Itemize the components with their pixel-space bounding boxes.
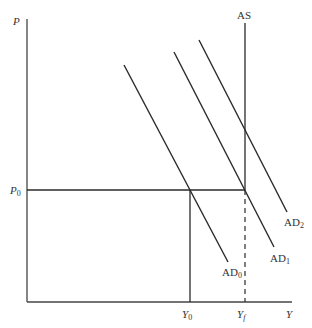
x-axis-label: Y: [286, 308, 294, 320]
ad2-label: AD2: [284, 216, 304, 230]
ad-as-diagram: P Y AS P0 Y0 Yf AD0 AD1 AD2: [0, 0, 312, 328]
y0-label: Y0: [182, 308, 192, 322]
y-axis-label: P: [12, 15, 20, 27]
ad1-label: AD1: [270, 252, 290, 266]
yf-label: Yf: [237, 308, 247, 322]
ad0-label: AD0: [222, 266, 242, 280]
ad0-curve: [124, 65, 228, 262]
p0-label: P0: [9, 184, 21, 198]
as-label: AS: [237, 9, 251, 21]
ad1-curve: [174, 52, 274, 247]
